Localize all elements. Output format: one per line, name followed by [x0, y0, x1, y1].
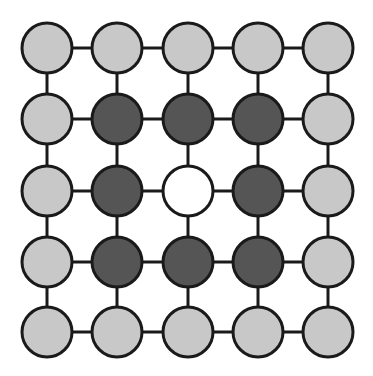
node-white-r2c2 — [163, 166, 213, 216]
node-light-r2c0 — [22, 166, 72, 216]
node-dark-r3c2 — [163, 237, 213, 287]
node-light-r3c0 — [22, 237, 72, 287]
node-light-r4c3 — [233, 307, 283, 357]
node-dark-r2c3 — [233, 166, 283, 216]
grid-graph-diagram — [0, 0, 373, 376]
node-light-r0c2 — [163, 23, 213, 73]
node-light-r4c1 — [92, 307, 142, 357]
node-light-r4c0 — [22, 307, 72, 357]
node-light-r0c4 — [303, 23, 353, 73]
node-light-r1c4 — [303, 94, 353, 144]
node-light-r4c2 — [163, 307, 213, 357]
node-light-r3c4 — [303, 237, 353, 287]
node-dark-r1c2 — [163, 94, 213, 144]
node-dark-r1c1 — [92, 94, 142, 144]
node-light-r0c0 — [22, 23, 72, 73]
node-dark-r2c1 — [92, 166, 142, 216]
node-light-r4c4 — [303, 307, 353, 357]
node-light-r2c4 — [303, 166, 353, 216]
node-dark-r1c3 — [233, 94, 283, 144]
node-light-r0c1 — [92, 23, 142, 73]
node-light-r1c0 — [22, 94, 72, 144]
node-dark-r3c3 — [233, 237, 283, 287]
node-dark-r3c1 — [92, 237, 142, 287]
node-light-r0c3 — [233, 23, 283, 73]
